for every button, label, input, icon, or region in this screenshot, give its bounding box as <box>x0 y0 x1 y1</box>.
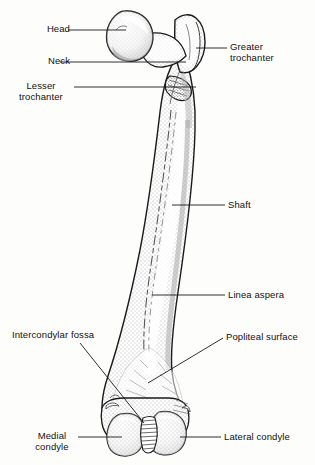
label-shaft: Shaft <box>228 200 268 211</box>
femur-diagram: HeadNeckLesser trochanterGreater trochan… <box>0 0 315 465</box>
label-popliteal-surface: Popliteal surface <box>226 332 314 343</box>
label-greater-trochanter: Greater trochanter <box>230 42 306 63</box>
label-neck: Neck <box>28 56 70 67</box>
label-head: Head <box>30 24 70 35</box>
femur-illustration <box>0 0 315 465</box>
label-lateral-condyle: Lateral condyle <box>224 432 310 443</box>
label-medial-condyle: Medial condyle <box>28 431 76 452</box>
label-lesser-trochanter: Lesser trochanter <box>10 81 72 102</box>
label-intercondylar-fossa: Intercondylar fossa <box>12 330 116 341</box>
label-linea-aspera: Linea aspera <box>228 290 302 301</box>
